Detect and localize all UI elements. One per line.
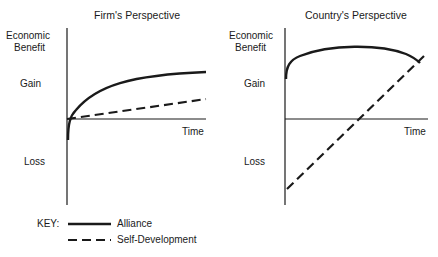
firm-self-development-line	[67, 99, 206, 119]
diagram-canvas	[0, 0, 438, 257]
country-self-development-line	[287, 56, 424, 189]
firm-alliance-curve	[68, 72, 206, 140]
country-alliance-curve	[286, 47, 420, 79]
